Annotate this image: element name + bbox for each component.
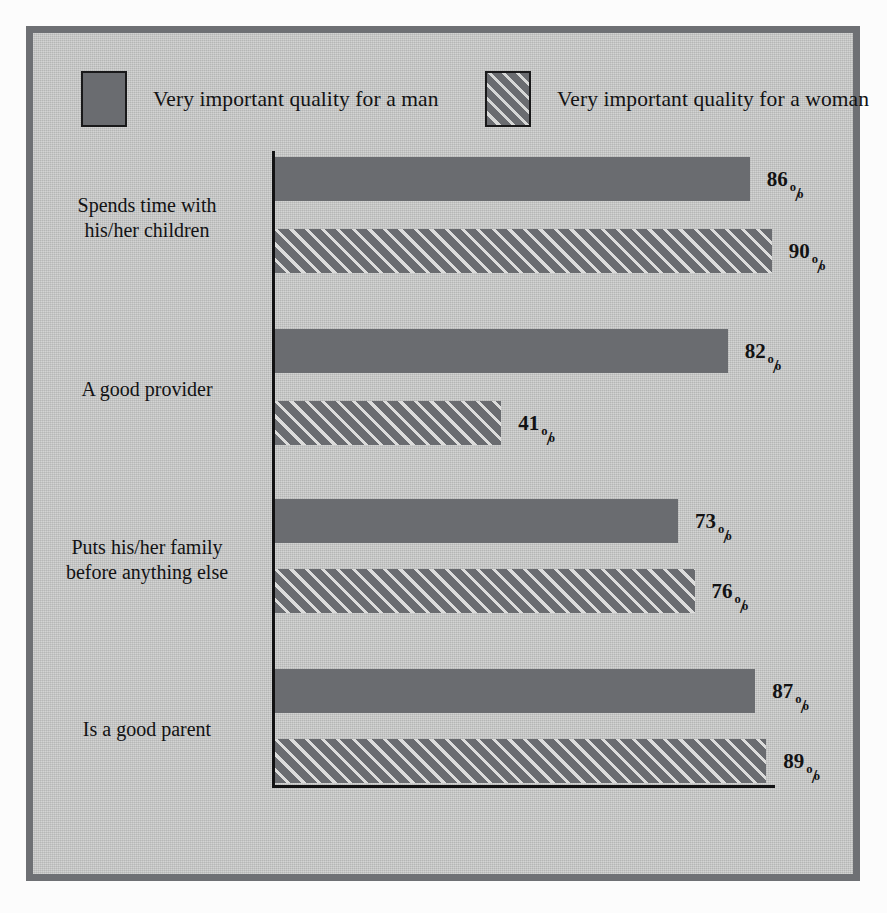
category-label: A good provider: [33, 377, 261, 402]
bar-woman: [275, 569, 695, 613]
plot-area: Spends time with his/her children 86o/o …: [33, 33, 853, 874]
category-label-line2: his/her children: [85, 219, 210, 241]
bar-man: [275, 329, 728, 373]
bar-row-man: 86o/o: [275, 157, 809, 201]
category-label-line1: A good provider: [81, 378, 212, 400]
bar-row-woman: 76o/o: [275, 569, 754, 613]
bar-woman: [275, 229, 772, 273]
bar-value-woman: 89o/o: [783, 749, 826, 774]
bar-value-man: 82o/o: [745, 339, 788, 364]
bar-woman: [275, 739, 766, 783]
bar-value-woman: 90o/o: [789, 239, 832, 264]
bar-row-woman: 89o/o: [275, 739, 826, 783]
bar-row-man: 87o/o: [275, 669, 815, 713]
bar-woman: [275, 401, 501, 445]
bar-row-woman: 41o/o: [275, 401, 561, 445]
bar-value-man: 73o/o: [695, 509, 738, 534]
bar-value-man: 87o/o: [772, 679, 815, 704]
category-label: Is a good parent: [33, 717, 261, 742]
category-label-line2: before anything else: [66, 561, 228, 583]
chart-frame: Very important quality for a man Very im…: [26, 26, 860, 881]
category-label: Spends time with his/her children: [33, 193, 261, 243]
category-label-line1: Spends time with: [78, 194, 217, 216]
chart-plate: Very important quality for a man Very im…: [33, 33, 853, 874]
bar-value-woman: 41o/o: [518, 411, 561, 436]
category-label-line1: Is a good parent: [83, 718, 211, 740]
bar-row-man: 82o/o: [275, 329, 787, 373]
chart-page: Very important quality for a man Very im…: [0, 0, 887, 913]
bar-row-man: 73o/o: [275, 499, 738, 543]
bar-man: [275, 157, 750, 201]
bar-man: [275, 669, 755, 713]
bar-value-man: 86o/o: [767, 167, 810, 192]
category-label-line1: Puts his/her family: [71, 536, 222, 558]
bar-value-woman: 76o/o: [712, 579, 755, 604]
bar-row-woman: 90o/o: [275, 229, 831, 273]
x-axis-line: [272, 785, 775, 788]
bar-man: [275, 499, 678, 543]
category-label: Puts his/her family before anything else: [33, 535, 261, 585]
